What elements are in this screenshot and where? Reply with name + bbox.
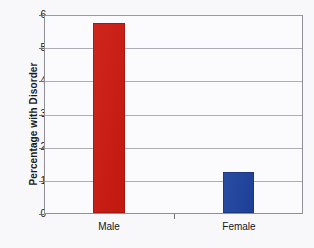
gridline-5 <box>45 48 302 49</box>
gridline-6 <box>45 15 302 16</box>
gridline-2 <box>45 148 302 149</box>
y-tick-label-2: 2 <box>20 142 46 152</box>
gridlines <box>45 15 302 213</box>
bar-chart: Percentage with Disorder 6 5 4 3 2 1 0 M… <box>0 0 314 248</box>
x-tick-mark-category-boundary <box>174 214 175 219</box>
bar-male <box>93 23 125 213</box>
x-tick-label-male: Male <box>79 221 139 232</box>
gridline-4 <box>45 81 302 82</box>
gridline-3 <box>45 115 302 116</box>
x-tick-label-female: Female <box>209 221 269 232</box>
plot-area <box>44 15 303 214</box>
gridline-1 <box>45 181 302 182</box>
bar-female <box>223 172 254 213</box>
y-tick-label-3: 3 <box>20 109 46 119</box>
y-tick-mark-0 <box>39 214 44 215</box>
